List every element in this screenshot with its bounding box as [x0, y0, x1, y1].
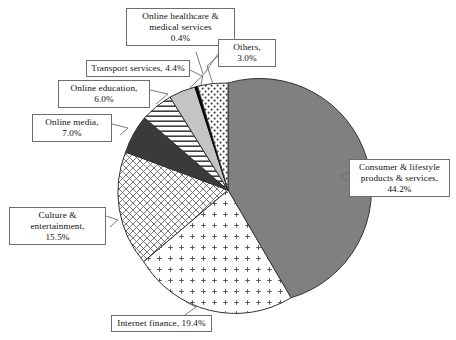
callout-consumer-lifestyle[interactable]: Consumer & lifestyle products & services… — [349, 159, 450, 197]
leader-line-others-2 — [204, 54, 218, 74]
leader-line-culture — [106, 216, 118, 227]
callout-others[interactable]: Others, 3.0% — [218, 39, 276, 67]
pie-slices — [118, 78, 372, 313]
leader-line-media — [112, 124, 128, 135]
leader-line-healthcare — [196, 52, 203, 85]
callout-online-media[interactable]: Online media, 7.0% — [32, 114, 112, 142]
callout-internet-finance[interactable]: Internet finance, 19.4% — [111, 315, 212, 332]
callout-culture-entertainment[interactable]: Culture & entertainment, 15.5% — [9, 207, 106, 245]
pie-chart-page: Online healthcare & medical services 0.4… — [0, 0, 456, 340]
callout-transport-services[interactable]: Transport services, 4.4% — [86, 60, 190, 77]
callout-online-education[interactable]: Online education, 6.0% — [58, 80, 150, 108]
leader-line-others — [207, 56, 218, 84]
